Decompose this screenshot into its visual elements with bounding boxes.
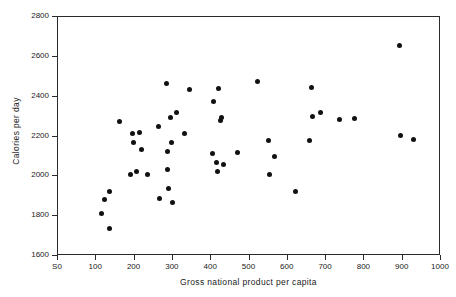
scatter-point xyxy=(272,154,277,159)
y-axis-tick-label: 2400 xyxy=(0,91,49,100)
y-axis-tick-label: 2000 xyxy=(0,170,49,179)
x-axis-tick-label: 700 xyxy=(305,262,345,271)
x-axis-tick xyxy=(95,255,96,260)
scatter-point xyxy=(107,189,112,194)
x-axis-tick-label: 200 xyxy=(114,262,154,271)
x-axis-tick-label: 900 xyxy=(382,262,422,271)
y-axis-tick xyxy=(52,16,57,17)
y-axis-tick-label: 1600 xyxy=(0,250,49,259)
y-axis-tick-label: 1800 xyxy=(0,210,49,219)
x-axis-tick xyxy=(363,255,364,260)
x-axis-tick xyxy=(402,255,403,260)
x-axis-tick-label: 1000 xyxy=(420,262,456,271)
scatter-point xyxy=(337,117,342,122)
scatter-point xyxy=(318,110,323,115)
scatter-point xyxy=(235,150,240,155)
scatter-point xyxy=(219,115,224,120)
scatter-point xyxy=(130,131,135,136)
x-axis-tick xyxy=(172,255,173,260)
scatter-point xyxy=(211,99,216,104)
scatter-point xyxy=(309,85,314,90)
x-axis-tick-label: 600 xyxy=(267,262,307,271)
y-axis-title: Calories per day xyxy=(11,71,21,191)
x-axis-tick xyxy=(210,255,211,260)
x-axis-tick-label: S0 xyxy=(37,262,77,271)
scatter-point xyxy=(174,110,179,115)
x-axis-tick-label: 300 xyxy=(152,262,192,271)
y-axis-tick-label: 2800 xyxy=(0,11,49,20)
scatter-point xyxy=(182,131,187,136)
y-axis-tick xyxy=(52,136,57,137)
x-axis-tick xyxy=(57,255,58,260)
plot-area-frame xyxy=(57,16,440,255)
x-axis-tick-label: 500 xyxy=(229,262,269,271)
y-axis-tick-label: 2200 xyxy=(0,131,49,140)
x-axis-tick xyxy=(134,255,135,260)
x-axis-tick xyxy=(249,255,250,260)
x-axis-tick-label: 400 xyxy=(190,262,230,271)
scatter-point xyxy=(139,147,144,152)
y-axis-tick xyxy=(52,96,57,97)
y-axis-tick-label: 2600 xyxy=(0,51,49,60)
scatter-point xyxy=(117,119,122,124)
scatter-point xyxy=(134,169,139,174)
y-axis-tick xyxy=(52,56,57,57)
x-axis-tick-label: 800 xyxy=(343,262,383,271)
x-axis-title: Gross national product per capita xyxy=(57,277,440,287)
y-axis-tick xyxy=(52,175,57,176)
scatter-point xyxy=(411,137,416,142)
scatter-point xyxy=(310,114,315,119)
x-axis-tick-label: 100 xyxy=(75,262,115,271)
scatter-point xyxy=(266,138,271,143)
x-axis-tick xyxy=(325,255,326,260)
x-axis-tick xyxy=(440,255,441,260)
scatter-point xyxy=(210,151,215,156)
x-axis-tick xyxy=(287,255,288,260)
y-axis-tick xyxy=(52,215,57,216)
scatter-chart-figure: 1600180020002200240026002800 S0100200300… xyxy=(0,0,456,297)
